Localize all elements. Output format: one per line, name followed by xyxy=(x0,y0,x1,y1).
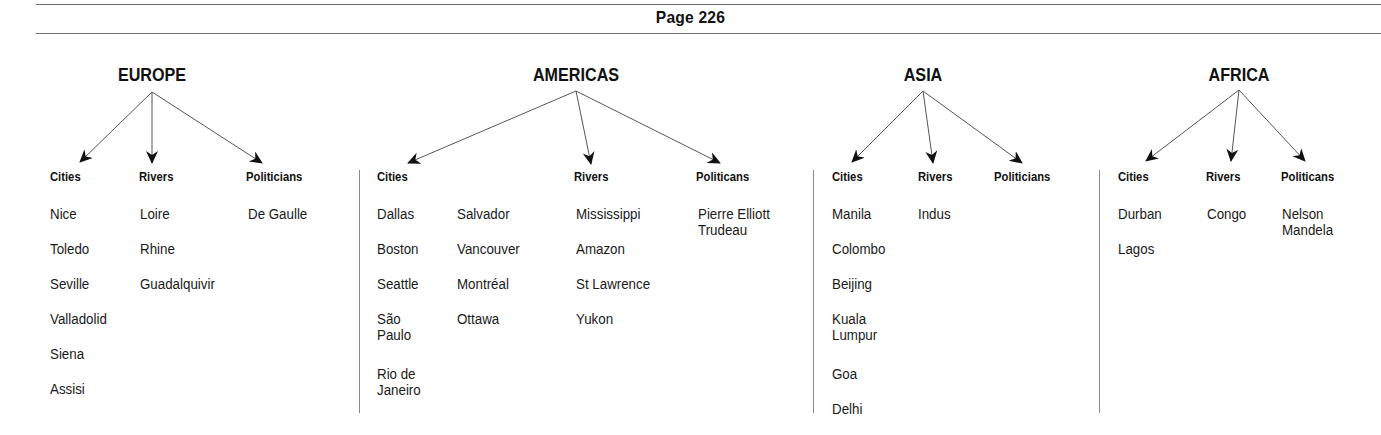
arrow-europe-cities xyxy=(80,92,152,162)
category-rivers: Rivers xyxy=(574,170,608,184)
category-politicians: Politicans xyxy=(696,170,749,184)
region-title-europe: EUROPE xyxy=(118,64,186,86)
category-cities: Cities xyxy=(377,170,408,184)
list-item-river: Indus xyxy=(918,206,951,222)
list-item-city: Manila xyxy=(832,206,871,222)
list-item-city: Colombo xyxy=(832,241,885,257)
list-item-city: Montréal xyxy=(457,276,509,292)
list-item-river: Yukon xyxy=(576,311,613,327)
arrow-europe-politicians xyxy=(152,92,262,163)
list-item-politician: De Gaulle xyxy=(248,206,307,222)
region-title-asia: ASIA xyxy=(904,64,943,86)
list-item-river: Loire xyxy=(140,206,170,222)
arrow-africa-rivers xyxy=(1231,90,1239,161)
list-item-city: Nice xyxy=(50,206,77,222)
list-item-politician: Nelson Mandela xyxy=(1282,206,1333,238)
category-cities: Cities xyxy=(1118,170,1149,184)
category-rivers: Rivers xyxy=(1206,170,1240,184)
category-politicians: Politicians xyxy=(994,170,1050,184)
top-rule xyxy=(36,4,1381,5)
arrow-asia-politicians xyxy=(923,91,1022,163)
list-item-river: St Lawrence xyxy=(576,276,650,292)
list-item-city: Goa xyxy=(832,366,857,382)
list-item-city: Dallas xyxy=(377,206,414,222)
list-item-city: Durban xyxy=(1118,206,1162,222)
list-item-city: Assisi xyxy=(50,381,85,397)
arrow-africa-cities xyxy=(1146,90,1239,161)
region-title-africa: AFRICA xyxy=(1208,64,1269,86)
list-item-city: Boston xyxy=(377,241,419,257)
list-item-city: Beijing xyxy=(832,276,872,292)
list-item-city: Valladolid xyxy=(50,311,107,327)
list-item-city: Siena xyxy=(50,346,84,362)
list-item-city: Lagos xyxy=(1118,241,1154,257)
arrow-africa-politicians xyxy=(1239,90,1305,161)
category-rivers: Rivers xyxy=(918,170,952,184)
arrow-asia-cities xyxy=(852,91,923,162)
list-item-city: Delhi xyxy=(832,401,862,417)
region-title-americas: AMERICAS xyxy=(533,64,619,86)
list-item-city: Salvador xyxy=(457,206,510,222)
list-item-city: Ottawa xyxy=(457,311,499,327)
list-item-river: Congo xyxy=(1207,206,1246,222)
list-item-river: Mississippi xyxy=(576,206,640,222)
category-cities: Cities xyxy=(50,170,81,184)
divider-europe-americas xyxy=(359,170,360,413)
tree-arrows-icon xyxy=(0,0,1381,435)
divider-asia-africa xyxy=(1099,170,1100,413)
page-title: Page 226 xyxy=(55,8,1326,28)
list-item-river: Amazon xyxy=(576,241,625,257)
list-item-river: Guadalquivir xyxy=(140,276,215,292)
list-item-city: Toledo xyxy=(50,241,89,257)
arrow-americas-cities xyxy=(408,91,576,163)
list-item-city: Seattle xyxy=(377,276,419,292)
list-item-city: Seville xyxy=(50,276,89,292)
list-item-politician: Pierre Elliott Trudeau xyxy=(698,206,770,238)
arrow-asia-rivers xyxy=(923,91,933,163)
category-politicians: Politicans xyxy=(1281,170,1334,184)
list-item-river: Rhine xyxy=(140,241,175,257)
category-rivers: Rivers xyxy=(139,170,173,184)
list-item-city: Kuala Lumpur xyxy=(832,311,877,343)
category-politicians: Politicians xyxy=(246,170,302,184)
list-item-city: Vancouver xyxy=(457,241,520,257)
list-item-city: Rio de Janeiro xyxy=(377,366,421,398)
arrow-americas-rivers xyxy=(576,91,591,164)
header-bottom-rule xyxy=(36,33,1381,34)
arrow-americas-politicians xyxy=(576,91,720,163)
divider-americas-asia xyxy=(813,170,814,413)
category-cities: Cities xyxy=(832,170,863,184)
list-item-city: São Paulo xyxy=(377,311,411,343)
